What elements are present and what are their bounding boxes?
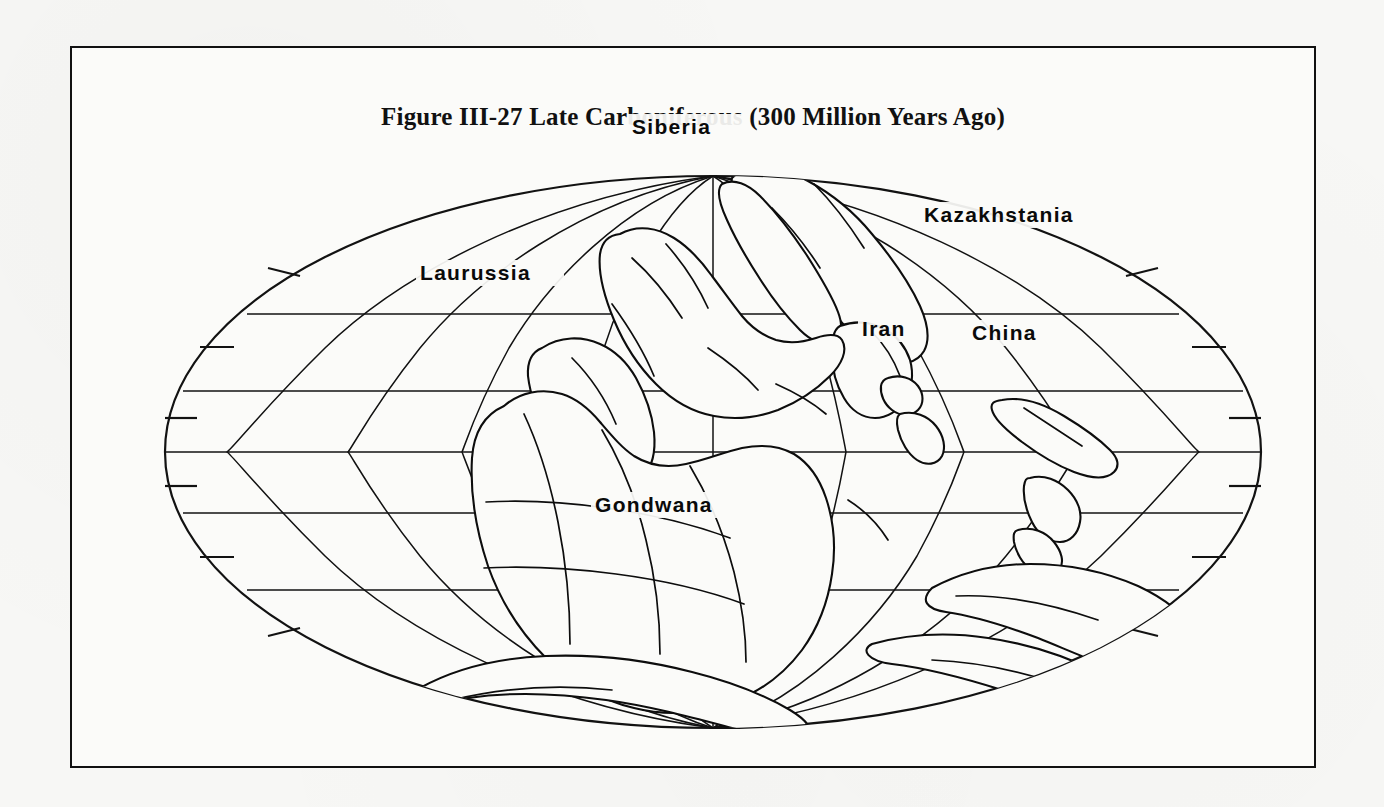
label-kazakhstania-text: Kazakhstania	[924, 203, 1074, 226]
tick-left-75s	[268, 628, 300, 636]
label-laurussia: Laurussia	[416, 260, 564, 286]
label-china: China	[968, 320, 1054, 346]
label-siberia-text: Siberia	[632, 115, 711, 138]
label-laurussia-text: Laurussia	[420, 261, 531, 284]
tick-right-75n	[1126, 268, 1158, 276]
label-siberia: Siberia	[628, 114, 744, 140]
label-iran-text: Iran	[862, 317, 906, 340]
label-iran: Iran	[858, 316, 920, 342]
tick-left-75n	[268, 268, 300, 276]
map-svg: Siberia Kazakhstania Laurussia Iran	[72, 48, 1318, 770]
paleogeographic-map: Siberia Kazakhstania Laurussia Iran	[72, 48, 1318, 770]
label-kazakhstania: Kazakhstania	[920, 202, 1112, 228]
label-gondwana-text: Gondwana	[595, 493, 713, 516]
label-gondwana: Gondwana	[591, 492, 747, 518]
figure-page: Figure III-27 Late Carboniferous (300 Mi…	[0, 0, 1384, 807]
label-china-text: China	[972, 321, 1037, 344]
figure-frame: Figure III-27 Late Carboniferous (300 Mi…	[70, 46, 1316, 768]
